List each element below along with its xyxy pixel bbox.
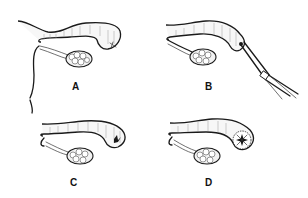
panel-d: D: [169, 119, 254, 188]
panel-label-b: B: [205, 81, 212, 92]
ovarian-ligament: [174, 140, 196, 151]
panel-a: A: [18, 21, 121, 98]
fallopian-tube: [166, 21, 245, 51]
uterus-wall-end: [30, 100, 32, 113]
fimbrial-opening-icon: [233, 131, 251, 149]
figure-canvas: A B: [0, 0, 308, 198]
fallopian-tube: [41, 121, 125, 148]
panel-c: C: [30, 100, 125, 188]
uterus-wall: [30, 46, 39, 98]
forceps-icon: [239, 42, 298, 99]
fallopian-tube: [18, 21, 121, 49]
panel-label-c: C: [70, 177, 77, 188]
ovarian-ligament: [46, 142, 68, 152]
panel-b: B: [166, 21, 298, 99]
panel-label-a: A: [72, 81, 79, 92]
panel-label-d: D: [205, 177, 212, 188]
